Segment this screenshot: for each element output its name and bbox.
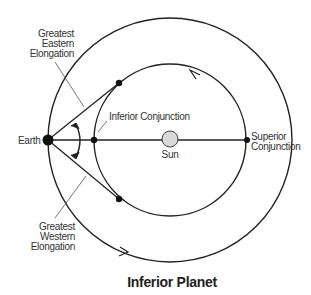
eastern-leader-line — [55, 62, 84, 107]
eastern-label-3: Elongation — [30, 48, 74, 59]
superior-conjunction-dot — [244, 137, 250, 143]
inferior-conjunction-dot — [91, 137, 97, 143]
inferior-conjunction-label: Inferior Conjunction — [109, 111, 190, 122]
inferior-planet-diagram: Earth Sun Inferior Conjunction Superior … — [0, 0, 311, 295]
western-elongation-dot — [116, 196, 122, 202]
earth-label: Earth — [18, 135, 40, 146]
sun-label: Sun — [162, 149, 179, 160]
angle-arrow-up-icon — [71, 123, 79, 129]
superior-conjunction-label-2: Conjunction — [251, 141, 301, 152]
earth-dot — [43, 135, 54, 146]
western-label-3: Elongation — [31, 241, 75, 252]
inferior-leader-line — [98, 121, 107, 132]
angle-arrow-down-icon — [71, 152, 79, 159]
inner-orbit-arrow-icon — [190, 70, 200, 79]
eastern-elongation-dot — [116, 80, 122, 86]
diagram-title: Inferior Planet — [127, 274, 217, 290]
sun — [162, 131, 178, 147]
